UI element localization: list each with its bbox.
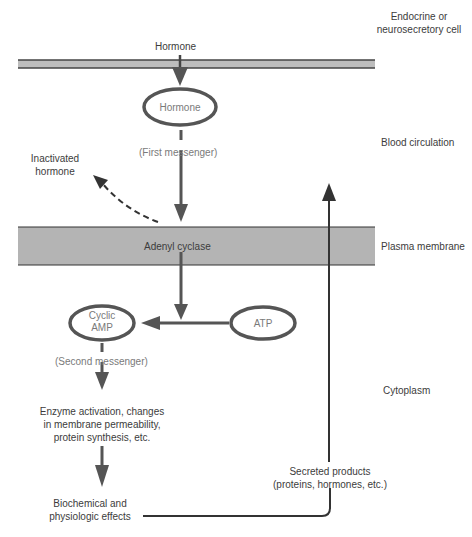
label-line: AMP	[72, 322, 132, 334]
label-line: Biochemical and	[40, 497, 140, 510]
label-line: hormone	[25, 165, 85, 178]
enzyme-activation-label: Enzyme activation, changes in membrane p…	[22, 405, 182, 444]
biochemical-effects-label: Biochemical and physiologic effects	[40, 497, 140, 523]
region-blood-label: Blood circulation	[381, 136, 454, 149]
label-line: physiologic effects	[40, 510, 140, 523]
adenyl-cyclase-label: Adenyl cyclase	[144, 240, 211, 253]
label-line: Inactivated	[25, 152, 85, 165]
diagram-canvas	[0, 0, 472, 537]
cyclic-amp-label: Cyclic AMP	[72, 310, 132, 334]
first-messenger-label: (First messenger)	[139, 146, 217, 159]
region-cytoplasm-label: Cytoplasm	[383, 384, 430, 397]
label-line: in membrane permeability,	[22, 418, 182, 431]
label-line: Secreted products	[262, 465, 398, 478]
secreted-products-label: Secreted products (proteins, hormones, e…	[262, 465, 398, 491]
inactivated-hormone-label: Inactivated hormone	[25, 152, 85, 178]
label-line: Endocrine or	[374, 10, 464, 23]
region-membrane-label: Plasma membrane	[381, 240, 465, 253]
label-line: neurosecretory cell	[374, 23, 464, 36]
region-cell-label: Endocrine or neurosecretory cell	[374, 10, 464, 36]
inactivated-arrow	[102, 183, 158, 222]
secretion-path	[143, 488, 330, 516]
hormone-ellipse-label: Hormone	[144, 101, 216, 114]
cell-membrane	[18, 60, 375, 68]
hormone-top-label: Hormone	[155, 40, 196, 53]
label-line: Enzyme activation, changes	[22, 405, 182, 418]
label-line: Cyclic	[72, 310, 132, 322]
atp-label: ATP	[233, 317, 293, 330]
label-line: protein synthesis, etc.	[22, 431, 182, 444]
second-messenger-label: (Second messenger)	[55, 355, 148, 368]
label-line: (proteins, hormones, etc.)	[262, 478, 398, 491]
